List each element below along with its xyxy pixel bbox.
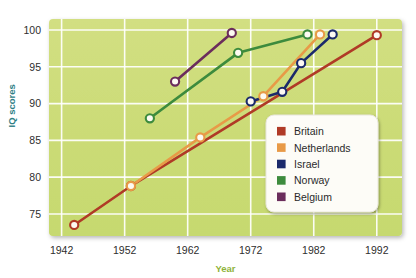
data-point-marker	[247, 97, 255, 105]
data-point-marker	[70, 221, 78, 229]
data-point-marker	[171, 77, 179, 85]
legend-item-norway[interactable]: Norway	[277, 174, 330, 186]
y-tick-label: 80	[29, 171, 41, 183]
y-tick-label: 95	[29, 61, 41, 73]
data-point-marker	[303, 30, 311, 38]
data-point-marker	[196, 133, 204, 141]
legend-swatch	[277, 160, 286, 169]
data-point-marker	[234, 49, 242, 57]
chart-figure: 194219521962197219821992 7580859095100 I…	[0, 0, 416, 278]
data-point-marker	[278, 88, 286, 96]
legend-label: Netherlands	[294, 142, 351, 154]
data-point-marker	[373, 31, 381, 39]
chart-legend: BritainNetherlandsIsraelNorwayBelgium	[266, 115, 378, 212]
legend-item-britain[interactable]: Britain	[277, 125, 324, 137]
legend-item-belgium[interactable]: Belgium	[277, 191, 332, 203]
legend-label: Israel	[294, 158, 320, 170]
legend-swatch	[277, 193, 286, 202]
data-point-marker	[259, 92, 267, 100]
legend-label: Britain	[294, 125, 324, 137]
x-tick-label: 1982	[302, 244, 326, 256]
y-tick-label: 100	[23, 24, 41, 36]
data-point-marker	[127, 182, 135, 190]
x-tick-label: 1942	[50, 244, 74, 256]
y-tick-label: 85	[29, 134, 41, 146]
data-point-marker	[329, 30, 337, 38]
legend-item-israel[interactable]: Israel	[277, 158, 320, 170]
data-point-marker	[146, 114, 154, 122]
legend-label: Belgium	[294, 191, 332, 203]
x-axis-title: Year	[215, 263, 235, 274]
iq-scores-line-chart: 194219521962197219821992 7580859095100 I…	[0, 0, 416, 278]
legend-label: Norway	[294, 174, 330, 186]
x-tick-label: 1962	[176, 244, 200, 256]
legend-swatch	[277, 127, 286, 136]
x-tick-label: 1972	[239, 244, 263, 256]
x-tick-label: 1952	[113, 244, 137, 256]
y-axis-title: IQ scores	[6, 84, 17, 127]
legend-swatch	[277, 176, 286, 185]
data-point-marker	[316, 30, 324, 38]
data-point-marker	[297, 59, 305, 67]
y-tick-label: 90	[29, 97, 41, 109]
data-point-marker	[228, 29, 236, 37]
y-tick-label: 75	[29, 208, 41, 220]
x-tick-label: 1992	[365, 244, 389, 256]
legend-swatch	[277, 143, 286, 152]
